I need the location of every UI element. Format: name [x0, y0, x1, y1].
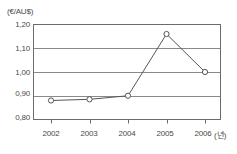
data-markers: [48, 31, 207, 103]
data-point-2004: [125, 93, 130, 98]
data-point-2002: [48, 98, 53, 103]
data-point-2006: [202, 69, 207, 74]
gridlines: [34, 49, 221, 97]
x-axis-ticks: [52, 120, 206, 124]
data-point-2003: [87, 97, 92, 102]
data-line: [51, 34, 205, 101]
plot-area: [0, 0, 237, 154]
line-chart: (€/AU$) 1,20 1,10 1,00 0,90 0,80 2002 20…: [0, 0, 237, 154]
data-point-2005: [164, 31, 169, 36]
